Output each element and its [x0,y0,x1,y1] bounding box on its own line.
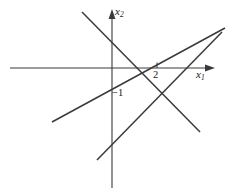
x-axis-label-subscript: 1 [201,73,205,82]
y-axis-label-subscript: 2 [120,10,124,19]
x-axis-arrowhead [205,65,215,72]
tick-label-2: 2 [153,70,158,81]
y-axis-label: x2 [115,6,124,17]
x-axis-label: x1 [196,69,205,80]
annotation-minus-one: −1 [112,88,123,99]
coordinate-plot-figure: x2 x1 2 −1 [0,0,234,196]
